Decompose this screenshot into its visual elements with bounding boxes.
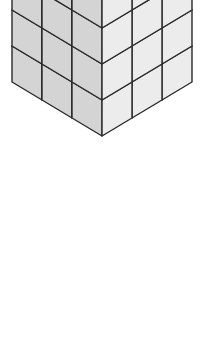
cube-stack [12,0,192,136]
cube-figure [0,0,200,352]
